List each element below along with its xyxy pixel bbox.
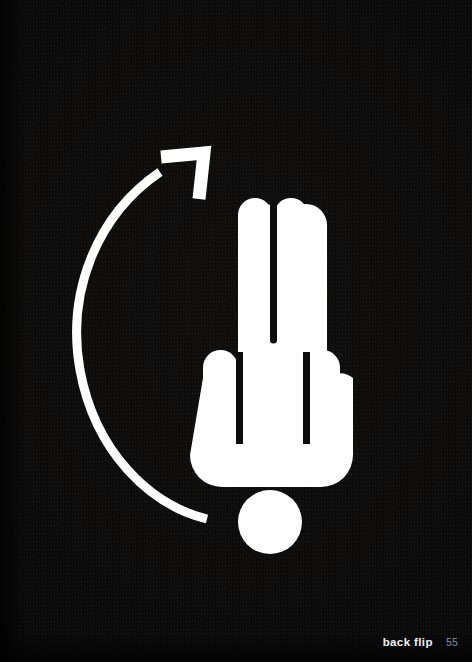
- page: back flip 55: [0, 0, 472, 662]
- arrow-head-icon: [161, 153, 204, 199]
- page-number: 55: [446, 636, 458, 648]
- curved-arrow: [77, 153, 207, 519]
- artwork-illustration: [0, 0, 472, 662]
- hand-exclamation-glyph: [190, 198, 353, 487]
- arrow-shaft: [77, 172, 207, 519]
- footer: back flip 55: [383, 636, 458, 648]
- artwork-caption: back flip: [383, 636, 433, 648]
- exclamation-dot: [238, 490, 302, 554]
